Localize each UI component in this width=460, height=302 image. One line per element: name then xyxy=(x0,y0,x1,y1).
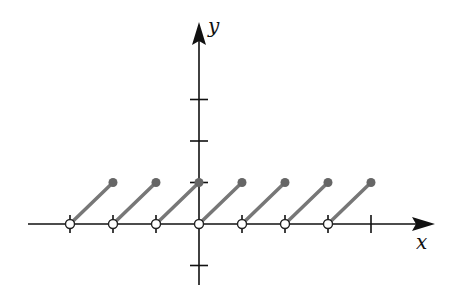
segment xyxy=(70,183,113,225)
y-axis-label: y xyxy=(208,14,219,38)
x-axis-label: x xyxy=(416,230,427,254)
closed-endpoint xyxy=(238,178,247,187)
closed-endpoint xyxy=(324,178,333,187)
open-endpoint xyxy=(195,220,204,229)
open-endpoint xyxy=(281,220,290,229)
open-endpoint xyxy=(66,220,75,229)
segment xyxy=(156,183,199,225)
segment xyxy=(285,183,328,225)
open-endpoint xyxy=(238,220,247,229)
closed-endpoint xyxy=(109,178,118,187)
graph-canvas: y x xyxy=(0,0,460,302)
closed-endpoint xyxy=(281,178,290,187)
plot xyxy=(0,0,460,302)
segment xyxy=(242,183,285,225)
axes xyxy=(28,22,435,285)
closed-endpoint xyxy=(195,178,204,187)
segment xyxy=(113,183,156,225)
open-endpoint xyxy=(324,220,333,229)
segments xyxy=(70,183,371,225)
open-endpoint xyxy=(109,220,118,229)
segment xyxy=(328,183,371,225)
closed-endpoint xyxy=(367,178,376,187)
closed-endpoint xyxy=(152,178,161,187)
segment xyxy=(199,183,242,225)
open-endpoint xyxy=(152,220,161,229)
